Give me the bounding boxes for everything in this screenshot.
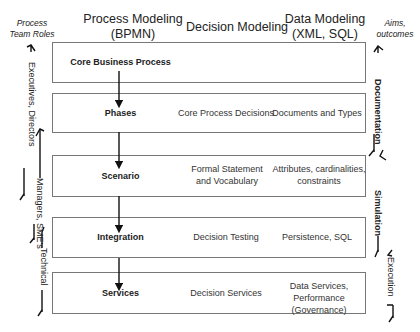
bracket-end-icon xyxy=(30,238,34,243)
bracket-end-icon xyxy=(375,250,378,257)
diagram-lines xyxy=(0,0,420,332)
outcome-label-execution: Execution xyxy=(386,257,396,297)
bracket-end-icon xyxy=(38,310,42,316)
bracket-start-icon xyxy=(374,46,383,53)
bracket-end-icon xyxy=(20,194,24,200)
role-label-executives: Executives, Directors xyxy=(27,62,37,147)
outcome-label-documentation: Documentation xyxy=(373,79,383,145)
bracket-start-icon xyxy=(380,150,386,160)
bracket-start-icon xyxy=(388,250,392,256)
outcome-label-simulation: Simulation xyxy=(373,190,383,236)
bracket-start-icon xyxy=(27,45,35,52)
role-label-technical: Technical xyxy=(39,248,49,286)
bracket-end-icon xyxy=(369,150,374,156)
bracket-end-icon xyxy=(389,316,393,322)
role-label-managers: Managers, SME's xyxy=(35,178,45,249)
